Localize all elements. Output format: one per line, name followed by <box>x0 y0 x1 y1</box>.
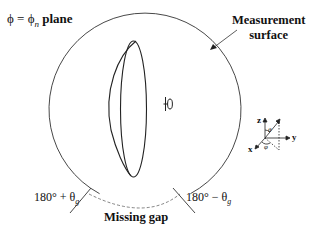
z-axis-label: z <box>257 115 261 125</box>
phi-angle-label: φ <box>264 143 268 151</box>
y-axis-label: y <box>292 132 297 142</box>
right-gap-angle-label: 180° − θg <box>186 190 231 206</box>
measurement-label-line1: Measurement <box>232 13 305 28</box>
plane-subscript: n <box>35 19 40 29</box>
measurement-surface-arc <box>49 13 241 194</box>
lens-object <box>109 41 147 177</box>
left-gap-angle-label: 180° + θg <box>34 190 79 206</box>
measurement-label-line2: surface <box>232 28 305 43</box>
left-angle-subscript: g <box>75 197 79 206</box>
plane-suffix: plane <box>42 11 72 26</box>
missing-gap-dashed-arc <box>89 194 180 208</box>
theta-angle-label: θ <box>268 126 271 134</box>
x-axis-label: x <box>248 144 253 154</box>
plane-equation: ϕ = ϕ <box>7 11 35 26</box>
right-angle-text: 180° − θ <box>186 190 227 204</box>
measurement-surface-label: Measurement surface <box>232 13 305 43</box>
plane-label: ϕ = ϕn plane <box>7 11 73 29</box>
left-angle-text: 180° + θ <box>34 190 75 204</box>
dipole-antenna-icon <box>164 97 173 111</box>
diagram-canvas: ϕ = ϕn plane Measurement surface 180° + … <box>0 0 317 230</box>
missing-gap-label: Missing gap <box>104 210 168 225</box>
right-angle-subscript: g <box>227 197 231 206</box>
